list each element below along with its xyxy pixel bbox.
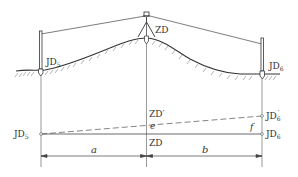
label-a: a [91,144,97,155]
point-jd6 [261,133,264,136]
dimension-line [41,155,262,158]
right-pole [260,38,265,79]
label-b: b [202,144,208,155]
label-f: f [249,122,255,132]
label-zd-elev: ZD [155,25,168,35]
label-zd-plan: ZD [149,138,162,148]
label-jd5-elev: JD5 [45,57,61,68]
label-e: e [150,121,155,131]
surveying-diagram: JD5 ZD JD6 JD5 JD6′ JD6 ZD′ e f ZD [0,0,298,177]
ground-profile [16,38,280,74]
point-jd5 [40,133,43,136]
left-pole [39,31,44,76]
label-jd6-prime: JD6′ [265,109,281,122]
label-zd-prime: ZD′ [149,109,165,119]
label-jd5-plan: JD5 [13,129,29,140]
label-jd6-plan: JD6 [265,129,281,140]
sight-line-left [41,16,145,34]
label-jd6-elev: JD6 [268,61,284,72]
point-jd6-prime [261,115,264,118]
